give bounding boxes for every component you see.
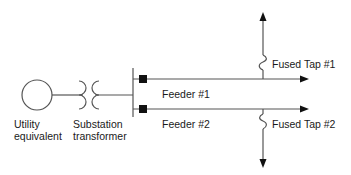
feeder-2-label: Feeder #2 <box>162 118 210 130</box>
arrow-up-icon <box>260 12 267 21</box>
feeder-2 <box>133 105 309 113</box>
transformer-label-line1: Substation <box>73 118 123 130</box>
transformer-coils-icon <box>79 81 133 109</box>
feeder-1-label: Feeder #1 <box>162 88 210 100</box>
tap-1-label: Fused Tap #1 <box>272 58 336 70</box>
breaker-square-icon <box>139 75 147 83</box>
source-label-line1: Utility <box>14 118 40 130</box>
ac-source-circle-icon <box>22 80 52 110</box>
breaker-square-icon <box>139 105 147 113</box>
transformer-label-line2: transformer <box>73 130 127 142</box>
fuse-icon <box>260 114 267 129</box>
fused-tap-1 <box>259 12 266 79</box>
tap-2-label: Fused Tap #2 <box>272 118 336 130</box>
source-label-line2: equivalent <box>14 130 62 142</box>
feeder-diagram: Utility equivalent Substation transforme… <box>0 0 351 175</box>
arrow-right-icon <box>300 76 309 83</box>
feeder-1 <box>133 75 309 83</box>
fused-tap-2 <box>260 109 267 168</box>
arrow-down-icon <box>260 159 267 168</box>
arrow-right-icon <box>300 106 309 113</box>
utility-source <box>22 80 83 110</box>
fuse-icon <box>259 55 266 70</box>
